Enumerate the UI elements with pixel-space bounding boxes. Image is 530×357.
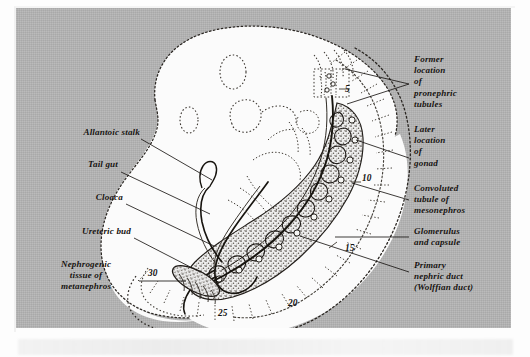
label-convoluted-tubule-mesonephros: Convoluted tubule of mesonephros xyxy=(414,183,510,217)
label-cloaca: Cloaca xyxy=(38,192,123,203)
label-glomerulus-and-capsule: Glomerulus and capsule xyxy=(414,226,510,248)
label-allantoic-stalk: Allantoic stalk xyxy=(38,127,140,138)
label-tail-gut: Tail gut xyxy=(38,159,118,170)
label-later-location-gonad: Later location of gonad xyxy=(414,124,506,169)
label-nephrogenic-tissue: Nephrogenic tissue of metanephros xyxy=(36,259,136,293)
somite-number-15: 15 xyxy=(345,243,354,253)
figure-root: Allantoic stalk Tail gut Cloaca Ureteric… xyxy=(0,0,530,357)
somite-number-25: 25 xyxy=(218,308,227,318)
somite-number-30: 30 xyxy=(148,268,157,278)
somite-number-10: 10 xyxy=(362,173,371,183)
label-former-location-pronephric-tubules: Former location of pronephric tubules xyxy=(414,54,506,110)
somite-number-5: 5 xyxy=(345,84,350,94)
label-ureteric-bud: Ureteric bud xyxy=(30,226,131,237)
label-primary-nephric-duct: Primary nephric duct (Wolffian duct) xyxy=(414,260,514,294)
somite-number-20: 20 xyxy=(288,298,297,308)
